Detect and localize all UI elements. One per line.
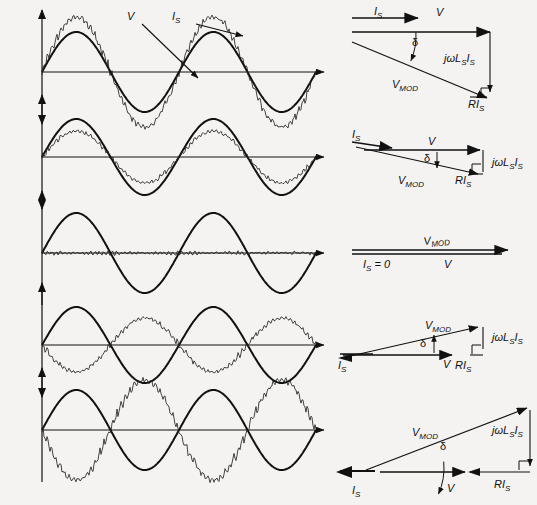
delta-label: δ <box>424 152 430 164</box>
delta-label: δ <box>420 337 426 349</box>
figure-canvas: ISVVMODjωLSISRISδISVVMODjωLSISRISδVMODIS… <box>0 0 537 505</box>
delta-label: δ <box>440 440 446 452</box>
delta-label: δ <box>412 36 418 48</box>
